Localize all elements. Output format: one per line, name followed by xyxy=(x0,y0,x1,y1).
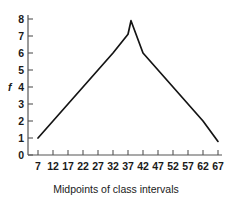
x-axis-tick-label: 12 xyxy=(47,160,59,172)
y-axis-tick-label: 4 xyxy=(18,81,24,93)
y-axis-tick-label: 3 xyxy=(18,98,24,110)
x-axis-ticks xyxy=(38,150,218,155)
x-axis-tick-label: 17 xyxy=(62,160,74,172)
frequency-polygon-chart: 012345678 7121722273237424752576267 f Mi… xyxy=(0,0,232,202)
x-axis-tick-label: 37 xyxy=(122,160,134,172)
y-axis-tick-label: 0 xyxy=(18,149,24,161)
chart-plot-area: 012345678 7121722273237424752576267 f Mi… xyxy=(0,0,232,202)
y-axis-tick-labels: 012345678 xyxy=(18,13,24,161)
y-axis-tick-label: 6 xyxy=(18,47,24,59)
x-axis-tick-label: 62 xyxy=(197,160,209,172)
x-axis-caption: Midpoints of class intervals xyxy=(53,183,178,195)
y-axis-title: f xyxy=(8,81,13,93)
y-axis: 012345678 xyxy=(18,13,33,161)
x-axis-tick-label: 67 xyxy=(212,160,224,172)
y-axis-tick-label: 2 xyxy=(18,115,24,127)
y-axis-tick-label: 5 xyxy=(18,64,24,76)
frequency-polygon-line xyxy=(38,21,218,142)
y-axis-tick-label: 7 xyxy=(18,30,24,42)
y-axis-tick-label: 1 xyxy=(18,132,24,144)
x-axis: 7121722273237424752576267 xyxy=(28,150,224,172)
x-axis-tick-label: 47 xyxy=(152,160,164,172)
x-axis-tick-label: 27 xyxy=(92,160,104,172)
x-axis-tick-label: 7 xyxy=(35,160,41,172)
x-axis-tick-label: 22 xyxy=(77,160,89,172)
x-axis-tick-labels: 7121722273237424752576267 xyxy=(35,160,224,172)
x-axis-tick-label: 57 xyxy=(182,160,194,172)
x-axis-tick-label: 52 xyxy=(167,160,179,172)
y-axis-tick-label: 8 xyxy=(18,13,24,25)
x-axis-tick-label: 32 xyxy=(107,160,119,172)
y-axis-ticks xyxy=(28,19,33,155)
x-axis-tick-label: 42 xyxy=(137,160,149,172)
